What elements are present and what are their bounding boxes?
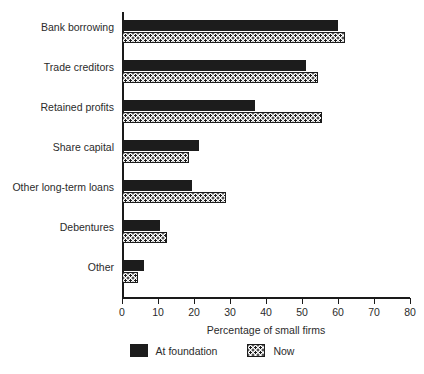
category-label-bank-borrowing: Bank borrowing bbox=[0, 21, 114, 33]
legend-label-at-foundation: At foundation bbox=[156, 345, 218, 357]
x-tick-10 bbox=[158, 298, 159, 304]
legend-item-now: Now bbox=[247, 344, 294, 357]
bar-bank-borrowing-now bbox=[122, 32, 345, 43]
x-tick-50 bbox=[302, 298, 303, 304]
x-tick-70 bbox=[374, 298, 375, 304]
x-tick-label-50: 50 bbox=[296, 306, 308, 318]
bar-trade-creditors-at-foundation bbox=[122, 60, 306, 71]
x-tick-60 bbox=[338, 298, 339, 304]
category-label-other-long-term-loans: Other long-term loans bbox=[0, 181, 114, 193]
legend-item-at-foundation: At foundation bbox=[130, 344, 218, 357]
category-label-trade-creditors: Trade creditors bbox=[0, 61, 114, 73]
x-tick-label-40: 40 bbox=[260, 306, 272, 318]
x-tick-20 bbox=[194, 298, 195, 304]
plot-area: 01020304050607080 Percentage of small fi… bbox=[122, 12, 410, 297]
bar-retained-profits-at-foundation bbox=[122, 100, 255, 111]
legend-label-now: Now bbox=[273, 345, 294, 357]
x-tick-40 bbox=[266, 298, 267, 304]
category-label-retained-profits: Retained profits bbox=[0, 101, 114, 113]
x-tick-label-30: 30 bbox=[224, 306, 236, 318]
category-label-other: Other bbox=[0, 261, 114, 273]
bar-other-now bbox=[122, 272, 138, 283]
chart-figure: Bank borrowingTrade creditorsRetained pr… bbox=[0, 0, 424, 374]
x-tick-label-20: 20 bbox=[188, 306, 200, 318]
x-tick-80 bbox=[410, 298, 411, 304]
bar-other-long-term-loans-now bbox=[122, 192, 226, 203]
category-label-share-capital: Share capital bbox=[0, 141, 114, 153]
x-tick-label-10: 10 bbox=[152, 306, 164, 318]
bar-trade-creditors-now bbox=[122, 72, 318, 83]
legend-swatch-solid-icon bbox=[130, 344, 148, 357]
bar-debentures-at-foundation bbox=[122, 220, 160, 231]
x-axis-title: Percentage of small firms bbox=[122, 324, 410, 336]
bar-debentures-now bbox=[122, 232, 167, 243]
bar-retained-profits-now bbox=[122, 112, 322, 123]
x-tick-label-70: 70 bbox=[368, 306, 380, 318]
bar-share-capital-now bbox=[122, 152, 189, 163]
x-tick-30 bbox=[230, 298, 231, 304]
bar-other-at-foundation bbox=[122, 260, 144, 271]
category-label-debentures: Debentures bbox=[0, 221, 114, 233]
x-tick-label-60: 60 bbox=[332, 306, 344, 318]
bar-bank-borrowing-at-foundation bbox=[122, 20, 338, 31]
bar-other-long-term-loans-at-foundation bbox=[122, 180, 192, 191]
x-tick-label-0: 0 bbox=[119, 306, 125, 318]
x-tick-0 bbox=[122, 298, 123, 304]
bar-share-capital-at-foundation bbox=[122, 140, 199, 151]
chart-legend: At foundation Now bbox=[0, 344, 424, 357]
legend-swatch-dotted-icon bbox=[247, 344, 265, 357]
x-tick-label-80: 80 bbox=[404, 306, 416, 318]
